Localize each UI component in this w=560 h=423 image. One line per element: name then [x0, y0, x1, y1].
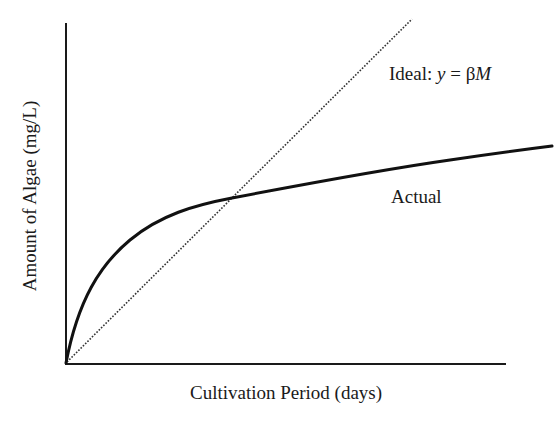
- ideal-line: [67, 19, 412, 362]
- ideal-annotation: Ideal: y = βM: [389, 63, 491, 85]
- actual-curve: [66, 146, 552, 363]
- x-axis-label: Cultivation Period (days): [0, 382, 560, 404]
- actual-annotation: Actual: [391, 186, 442, 208]
- ideal-m: M: [475, 63, 491, 84]
- ideal-prefix: Ideal:: [389, 63, 437, 84]
- y-axis-label: Amount of Algae (mg/L): [19, 101, 41, 292]
- ideal-eq: = β: [445, 63, 475, 84]
